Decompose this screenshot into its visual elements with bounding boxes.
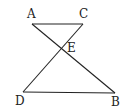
label-d: D bbox=[15, 94, 25, 107]
label-e: E bbox=[67, 41, 76, 55]
segment-cd bbox=[23, 24, 83, 92]
geometry-diagram: A C E D B bbox=[0, 0, 126, 107]
label-b: B bbox=[111, 95, 120, 107]
label-c: C bbox=[79, 7, 88, 21]
label-a: A bbox=[26, 7, 36, 21]
segment-db bbox=[23, 92, 115, 93]
